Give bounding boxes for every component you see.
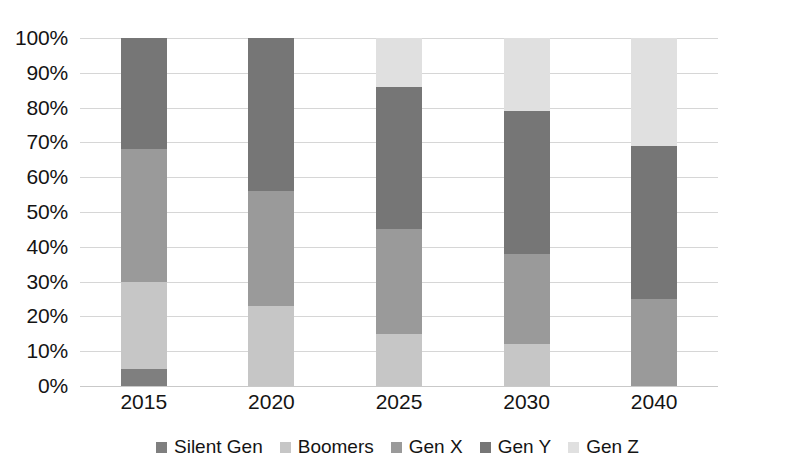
y-axis-tick-label: 70%	[27, 130, 68, 154]
y-axis: 0%10%20%30%40%50%60%70%80%90%100%	[0, 0, 74, 430]
x-axis-tick-label: 2020	[248, 390, 295, 414]
x-axis-tick-label: 2040	[631, 390, 678, 414]
bar-segment-gen-z[interactable]	[376, 38, 422, 87]
bar-segment-boomers[interactable]	[248, 306, 294, 386]
bar-segment-gen-x[interactable]	[504, 254, 550, 344]
bar-stack	[631, 38, 677, 386]
y-axis-tick-label: 30%	[27, 270, 68, 294]
legend-swatch-icon	[280, 442, 291, 453]
bar-segment-gen-z[interactable]	[504, 38, 550, 111]
bar-segment-gen-y[interactable]	[504, 111, 550, 254]
plot-wrapper: 0%10%20%30%40%50%60%70%80%90%100% 201520…	[0, 0, 795, 430]
gridline	[80, 386, 718, 387]
bar-segment-silent-gen[interactable]	[121, 369, 167, 386]
y-axis-tick-label: 90%	[27, 61, 68, 85]
bar-segment-boomers[interactable]	[504, 344, 550, 386]
bar-group-2030[interactable]	[463, 38, 591, 386]
legend-swatch-icon	[391, 442, 402, 453]
bar-segment-gen-y[interactable]	[121, 38, 167, 149]
stacked-bar-chart: 0%10%20%30%40%50%60%70%80%90%100% 201520…	[0, 0, 795, 469]
bar-segment-gen-x[interactable]	[631, 299, 677, 386]
legend-label: Gen Z	[586, 436, 639, 458]
legend-swatch-icon	[156, 442, 167, 453]
bar-group-2040[interactable]	[590, 38, 718, 386]
bars-layer	[80, 38, 718, 386]
plot-area	[80, 38, 718, 386]
y-axis-tick-label: 100%	[15, 26, 68, 50]
bar-segment-boomers[interactable]	[121, 282, 167, 369]
y-axis-tick-label: 0%	[38, 374, 68, 398]
legend-label: Gen X	[409, 436, 463, 458]
legend-label: Silent Gen	[174, 436, 263, 458]
y-axis-tick-label: 20%	[27, 304, 68, 328]
legend-item-silent-gen[interactable]: Silent Gen	[156, 436, 263, 458]
y-axis-tick-label: 80%	[27, 96, 68, 120]
x-axis: 20152020202520302040	[80, 390, 718, 424]
legend-swatch-icon	[480, 442, 491, 453]
chart-legend: Silent GenBoomersGen XGen YGen Z	[0, 432, 795, 462]
legend-item-boomers[interactable]: Boomers	[280, 436, 374, 458]
legend-item-gen-x[interactable]: Gen X	[391, 436, 463, 458]
x-axis-tick-label: 2025	[376, 390, 423, 414]
y-axis-tick-label: 50%	[27, 200, 68, 224]
bar-stack	[376, 38, 422, 386]
bar-segment-boomers[interactable]	[376, 334, 422, 386]
bar-stack	[248, 38, 294, 386]
bar-segment-gen-z[interactable]	[631, 38, 677, 146]
legend-swatch-icon	[568, 442, 579, 453]
bar-segment-gen-x[interactable]	[248, 191, 294, 306]
bar-stack	[504, 38, 550, 386]
bar-group-2020[interactable]	[208, 38, 336, 386]
y-axis-tick-label: 60%	[27, 165, 68, 189]
x-axis-tick-label: 2030	[503, 390, 550, 414]
legend-item-gen-z[interactable]: Gen Z	[568, 436, 639, 458]
bar-group-2015[interactable]	[80, 38, 208, 386]
y-axis-tick-label: 40%	[27, 235, 68, 259]
x-axis-tick-label: 2015	[120, 390, 167, 414]
bar-segment-gen-x[interactable]	[376, 229, 422, 333]
bar-segment-gen-y[interactable]	[248, 38, 294, 191]
bar-stack	[121, 38, 167, 386]
bar-group-2025[interactable]	[335, 38, 463, 386]
bar-segment-gen-y[interactable]	[631, 146, 677, 299]
y-axis-tick-label: 10%	[27, 339, 68, 363]
legend-label: Gen Y	[498, 436, 552, 458]
legend-item-gen-y[interactable]: Gen Y	[480, 436, 552, 458]
bar-segment-gen-x[interactable]	[121, 149, 167, 281]
bar-segment-gen-y[interactable]	[376, 87, 422, 230]
legend-label: Boomers	[298, 436, 374, 458]
